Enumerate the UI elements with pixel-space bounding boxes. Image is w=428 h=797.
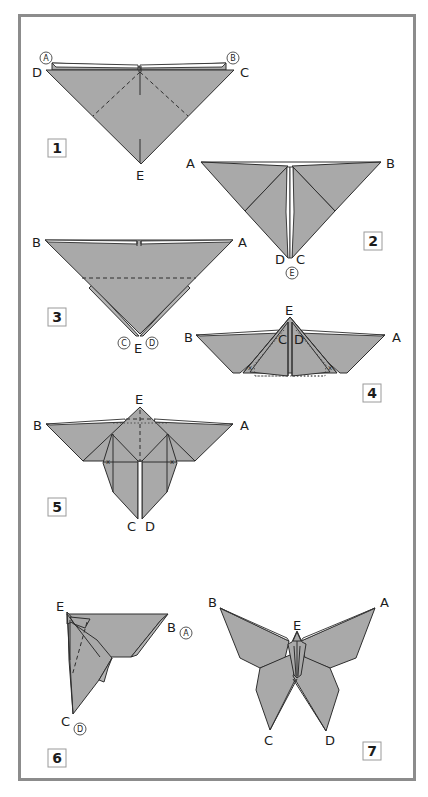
step5-label-a: A — [240, 418, 249, 433]
step1-number: 1 — [52, 140, 62, 156]
step6-number: 6 — [52, 750, 62, 766]
step4-label-d: D — [294, 332, 304, 347]
step6-label-e: E — [56, 599, 64, 614]
step5-label-b: B — [33, 418, 42, 433]
step7-label-d: D — [325, 733, 335, 748]
step5-label-d: D — [145, 519, 155, 534]
step2-label-e: E — [289, 269, 294, 278]
step2-label-a: A — [186, 156, 195, 171]
step5-number: 5 — [52, 499, 62, 515]
step3-label-d: D — [149, 339, 155, 348]
step1-label-d: D — [32, 65, 42, 80]
step4-x-mark-left: x — [248, 364, 252, 372]
step1-label-b: B — [230, 54, 236, 63]
step7-label-b: B — [208, 595, 217, 610]
step4-label-c: C — [278, 332, 287, 347]
step1-label-e: E — [136, 168, 144, 183]
step6-label-b: B — [167, 620, 176, 635]
step1-label-c: C — [240, 65, 249, 80]
step6-label-d: D — [77, 725, 83, 734]
step3-label-a: A — [238, 235, 247, 250]
step6-label-c: C — [61, 714, 70, 729]
step7-number: 7 — [367, 743, 377, 759]
step7-label-c: C — [264, 733, 273, 748]
step5-label-e: E — [135, 392, 143, 407]
step4-label-b: B — [184, 330, 193, 345]
step7-label-a: A — [380, 595, 389, 610]
step1-label-a: A — [43, 54, 49, 63]
step2-label-d: D — [275, 252, 285, 267]
step5-x-mark-left: x — [106, 458, 110, 466]
step2-label-b: B — [386, 156, 395, 171]
origami-diagram: A B D C E 1 A B D C E 2 — [0, 0, 428, 797]
step4-label-e: E — [285, 303, 293, 318]
step2-number: 2 — [368, 233, 378, 249]
step4-label-a: A — [392, 330, 401, 345]
step4-number: 4 — [367, 385, 377, 401]
step6-label-a: A — [183, 629, 189, 638]
step3-label-e: E — [134, 341, 142, 356]
step3-label-b: B — [32, 235, 41, 250]
step5-label-c: C — [127, 519, 136, 534]
step3-number: 3 — [52, 309, 62, 325]
step5-x-mark-right: x — [170, 458, 174, 466]
step2-label-c: C — [296, 252, 305, 267]
step4-x-mark-right: x — [328, 364, 332, 372]
step3-label-c: C — [121, 339, 127, 348]
step7-label-e: E — [293, 618, 301, 633]
